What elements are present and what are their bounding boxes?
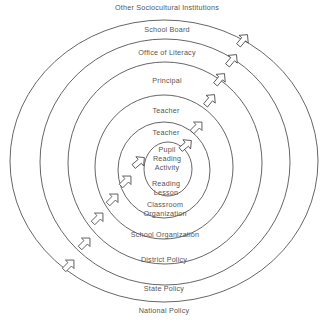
arrow-outward-icon	[234, 31, 252, 49]
label-classroom-organization-2: Organization	[143, 209, 186, 218]
label-school-organization: School Organization	[131, 230, 200, 239]
arrow-outward-icon	[188, 118, 206, 136]
label-teacher-inner: Teacher	[153, 128, 180, 137]
label-reading-lesson-1: Reading	[152, 179, 180, 188]
arrow-outward-icon	[89, 209, 107, 227]
label-classroom-organization-1: Classroom	[147, 200, 183, 209]
arrow-outward-icon	[104, 190, 122, 208]
label-district-policy: District Policy	[141, 255, 187, 264]
label-reading-lesson-2: Lesson	[154, 188, 178, 197]
label-reading: Reading	[153, 154, 181, 163]
arrow-outward-icon	[60, 256, 78, 274]
concentric-influence-diagram: Other Sociocultural Institutions School …	[0, 0, 325, 323]
arrow-outward-icon	[76, 234, 94, 252]
label-other-sociocultural-institutions: Other Sociocultural Institutions	[115, 3, 219, 12]
arrow-outward-icon	[201, 91, 219, 109]
label-national-policy: National Policy	[139, 306, 190, 315]
label-office-of-literacy: Office of Literacy	[138, 48, 196, 57]
label-state-policy: State Policy	[144, 284, 185, 293]
label-pupil: Pupil	[159, 145, 176, 154]
arrow-outward-icon	[211, 70, 229, 88]
label-school-board: School Board	[144, 25, 190, 34]
arrow-outward-icon	[223, 51, 241, 69]
label-principal: Principal	[152, 76, 182, 85]
label-teacher-outer: Teacher	[153, 106, 180, 115]
label-activity: Activity	[155, 163, 180, 172]
arrow-outward-icon	[130, 153, 148, 171]
